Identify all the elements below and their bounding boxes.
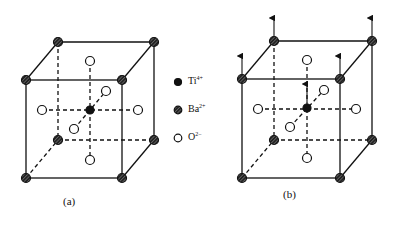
legend-ba-icon [174,106,182,114]
ti-atom [86,106,94,114]
legend-ti-label: Ti4+ [188,75,203,86]
ba-atom [22,76,31,85]
ba-atom [54,38,63,47]
o-atom [134,106,143,115]
o-atom [70,125,79,134]
caption-a: (a) [63,195,75,207]
ba-atom [54,136,63,145]
panel-a-atoms [22,38,159,183]
caption-b: (b) [283,188,296,200]
o-atom [86,156,95,165]
ba-atom [150,136,159,145]
o-atom [38,106,47,115]
ba-atom [118,174,127,183]
panel-b-atoms [238,37,377,183]
legend-o-label: O2− [188,131,202,142]
o-atom [86,57,95,66]
legend-o-icon [174,134,182,142]
ba-atom [118,76,127,85]
legend-symbols [174,79,182,142]
ba-atom [150,38,159,47]
o-atom [102,87,111,96]
ba-atom [22,174,31,183]
legend-ba-label: Ba2+ [188,103,206,114]
legend-ti-icon [175,79,182,86]
